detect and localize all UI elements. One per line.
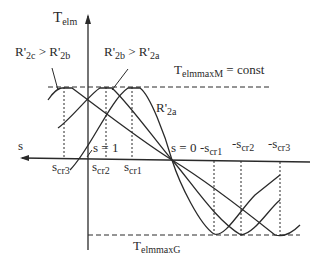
torque-slip-diagram: Telm s R'2c > R'2b R'2b > R'2a R'2a Telm…	[0, 0, 330, 269]
tick-neg-scr3: -scr3	[268, 137, 290, 153]
slip-axis-arrow-icon	[20, 155, 29, 161]
label-r2c-gt-r2b: R'2c > R'2b	[15, 45, 70, 61]
slip-axis-label: s	[18, 139, 23, 152]
label-r2b-gt-r2a: R'2b > R'2a	[104, 45, 159, 61]
tick-scr3: scr3	[52, 160, 70, 176]
label-tmax-motor: TelmmaxM = const	[174, 63, 264, 79]
diagram-graphics	[0, 0, 330, 269]
label-tmax-gen: TelmmaxG	[133, 239, 180, 255]
tick-neg-scr2: -scr2	[232, 137, 254, 153]
label-s-eq-1: s = 1	[93, 141, 118, 154]
label-s-eq-0: s = 0	[171, 141, 196, 154]
tick-scr1: scr1	[124, 160, 142, 176]
tick-scr2: scr2	[92, 160, 110, 176]
tick-neg-scr1: -scr1	[200, 141, 222, 157]
torque-axis-label: Telm	[53, 10, 77, 27]
torque-axis-arrow-icon	[85, 14, 91, 24]
label-r2a: R'2a	[156, 101, 176, 117]
